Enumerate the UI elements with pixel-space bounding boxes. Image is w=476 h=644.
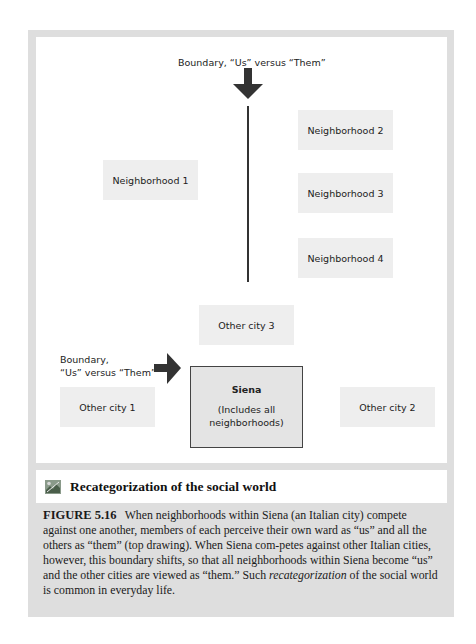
siena-name: Siena [232,384,262,397]
bottom-boundary-label: Boundary, “Us” versus “Them” [60,353,156,379]
other-city-2-box: Other city 2 [340,387,435,427]
right-arrow-icon [154,352,182,385]
figure-number: FIGURE 5.16 [43,508,117,522]
bottom-boundary-label-line2: “Us” versus “Them” [60,366,156,379]
figure-thumbnail-icon [45,480,61,494]
neighborhood-2-box: Neighborhood 2 [298,110,393,150]
siena-subtitle-line2: neighborhoods) [209,417,283,430]
other-city-3-label: Other city 3 [218,320,274,331]
other-city-1-box: Other city 1 [60,387,155,427]
neighborhood-1-box: Neighborhood 1 [103,160,198,200]
boundary-line [247,106,249,282]
top-boundary-label: Boundary, “Us” versus “Them” [178,57,326,68]
other-city-2-label: Other city 2 [359,402,415,413]
figure-title: Recategorization of the social world [70,479,276,495]
neighborhood-3-box: Neighborhood 3 [298,173,393,213]
caption-italic-term: recategorization [269,568,347,582]
neighborhood-1-label: Neighborhood 1 [113,175,189,186]
neighborhood-4-box: Neighborhood 4 [298,238,393,278]
neighborhood-2-label: Neighborhood 2 [308,125,384,136]
down-arrow-icon [232,68,264,100]
siena-box: Siena (Includes all neighborhoods) [190,366,303,448]
figure-caption: FIGURE 5.16When neighborhoods within Sie… [43,508,443,599]
other-city-3-box: Other city 3 [199,305,294,345]
other-city-1-label: Other city 1 [79,402,135,413]
neighborhood-3-label: Neighborhood 3 [308,188,384,199]
siena-subtitle-line1: (Includes all [218,404,275,417]
neighborhood-4-label: Neighborhood 4 [308,253,384,264]
diagram-panel: Boundary, “Us” versus “Them” Neighborhoo… [36,37,447,463]
bottom-boundary-label-line1: Boundary, [60,353,156,366]
figure-title-bar: Recategorization of the social world [36,470,447,503]
